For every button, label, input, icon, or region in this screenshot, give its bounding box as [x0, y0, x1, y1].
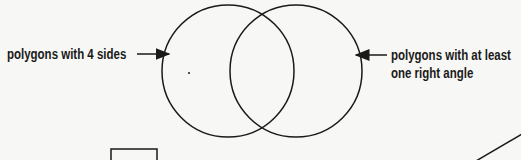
dot [188, 72, 190, 74]
label-four-sides: polygons with 4 sides [7, 45, 126, 63]
square-shape [111, 149, 157, 160]
label-right-angle: polygons with at least one right angle [391, 46, 511, 82]
circle-right-angle [230, 5, 362, 137]
label-right-angle-line2: one right angle [391, 64, 511, 82]
diagonal-line [476, 134, 521, 160]
label-right-angle-line1: polygons with at least [391, 46, 511, 64]
circle-four-sides [162, 5, 294, 137]
